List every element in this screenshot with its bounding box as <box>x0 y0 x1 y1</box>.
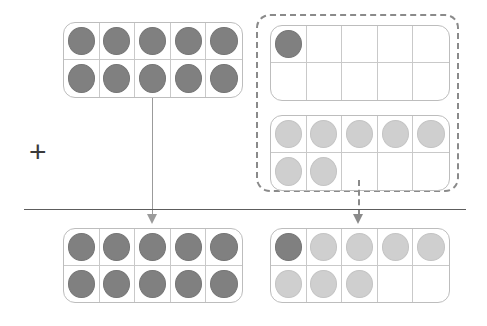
group-bottom-ten-frame <box>270 115 450 191</box>
counter-dot-light <box>346 120 373 148</box>
counter-dot-dark <box>210 27 238 55</box>
group-top-ten-frame <box>270 25 450 101</box>
empty-slot <box>275 67 302 96</box>
empty-slot <box>417 270 445 298</box>
ten-frame-cell <box>206 266 242 303</box>
ten-frame-cell <box>378 229 414 266</box>
counter-dot-dark <box>139 233 166 261</box>
ten-frame-cell <box>378 116 414 153</box>
ten-frame-addition-canvas: + <box>0 0 487 326</box>
ten-frame-cell <box>271 116 307 153</box>
counter-dot-light <box>346 270 373 298</box>
ten-frame-cell <box>206 60 242 97</box>
ten-frame-cell <box>171 60 207 97</box>
counter-dot-dark <box>103 64 130 93</box>
counter-dot-dark <box>139 64 166 93</box>
ten-frame-cell <box>307 116 343 153</box>
counter-dot-dark <box>68 27 95 55</box>
counter-dot-dark <box>68 233 95 261</box>
bottom-right-ten-frame <box>270 228 450 303</box>
ten-frame-cell <box>271 63 307 100</box>
ten-frame-cell <box>378 26 414 63</box>
counter-dot-light <box>275 270 302 298</box>
ten-frame-cell <box>100 266 136 303</box>
ten-frame-cell <box>342 266 378 303</box>
counter-dot-light <box>275 120 302 148</box>
ten-frame-cell <box>271 153 307 190</box>
counter-dot-light <box>417 120 445 148</box>
ten-frame-cell <box>342 229 378 266</box>
ten-frame-cell <box>64 60 100 97</box>
counter-dot-dark <box>275 233 302 261</box>
ten-frame-cell <box>413 63 449 100</box>
ten-frame-cell <box>413 116 449 153</box>
counter-dot-light <box>382 233 409 261</box>
empty-slot <box>417 30 445 58</box>
plus-sign: + <box>29 137 47 167</box>
counter-dot-light <box>310 233 337 261</box>
arrow-left-head <box>147 214 157 224</box>
ten-frame-cell <box>64 23 100 60</box>
counter-dot-dark <box>175 233 202 261</box>
ten-frame-cell <box>378 266 414 303</box>
ten-frame-cell <box>413 229 449 266</box>
ten-frame-cell <box>342 26 378 63</box>
counter-dot-light <box>346 233 373 261</box>
ten-frame-cell <box>307 63 343 100</box>
ten-frame-cell <box>413 26 449 63</box>
bottom-left-ten-frame <box>63 228 243 303</box>
ten-frame-cell <box>271 266 307 303</box>
empty-slot <box>417 67 445 96</box>
counter-dot-light <box>382 120 409 148</box>
ten-frame-cell <box>135 23 171 60</box>
equals-bar <box>24 209 466 210</box>
ten-frame-cell <box>100 229 136 266</box>
counter-dot-dark <box>210 233 238 261</box>
empty-slot <box>310 67 337 96</box>
ten-frame-cell <box>271 26 307 63</box>
counter-dot-dark <box>175 27 202 55</box>
ten-frame-cell <box>378 153 414 190</box>
ten-frame-cell <box>307 229 343 266</box>
counter-dot-light <box>310 157 337 186</box>
ten-frame-cell <box>100 60 136 97</box>
empty-slot <box>382 270 409 298</box>
arrow-right-head <box>353 214 363 224</box>
counter-dot-light <box>310 270 337 298</box>
ten-frame-cell <box>100 23 136 60</box>
arrow-left-shaft <box>152 98 153 215</box>
ten-frame-cell <box>307 26 343 63</box>
counter-dot-dark <box>210 64 238 93</box>
counter-dot-dark <box>175 64 202 93</box>
ten-frame-cell <box>271 229 307 266</box>
ten-frame-cell <box>171 266 207 303</box>
counter-dot-dark <box>139 27 166 55</box>
ten-frame-cell <box>135 229 171 266</box>
empty-slot <box>346 30 373 58</box>
counter-dot-dark <box>68 270 95 298</box>
ten-frame-cell <box>135 266 171 303</box>
empty-slot <box>382 30 409 58</box>
ten-frame-cell <box>307 153 343 190</box>
ten-frame-cell <box>413 266 449 303</box>
ten-frame-cell <box>413 153 449 190</box>
ten-frame-cell <box>206 229 242 266</box>
ten-frame-cell <box>342 63 378 100</box>
ten-frame-cell <box>171 229 207 266</box>
counter-dot-dark <box>275 30 302 58</box>
counter-dot-dark <box>175 270 202 298</box>
ten-frame-cell <box>64 266 100 303</box>
empty-slot <box>417 157 445 186</box>
counter-dot-dark <box>103 270 130 298</box>
ten-frame-cell <box>307 266 343 303</box>
empty-slot <box>382 157 409 186</box>
empty-slot <box>382 67 409 96</box>
counter-dot-light <box>417 233 445 261</box>
ten-frame-cell <box>64 229 100 266</box>
counter-dot-dark <box>210 270 238 298</box>
counter-dot-dark <box>103 233 130 261</box>
top-left-ten-frame <box>63 22 243 98</box>
ten-frame-cell <box>378 63 414 100</box>
empty-slot <box>346 67 373 96</box>
counter-dot-dark <box>139 270 166 298</box>
